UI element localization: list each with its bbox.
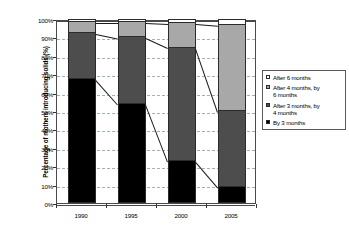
legend-label: By 3 months	[273, 119, 305, 126]
legend-swatch-icon	[266, 75, 270, 79]
bar-segment	[218, 110, 246, 185]
bar-segment	[68, 19, 96, 21]
bar-1995	[118, 19, 146, 203]
legend-item[interactable]: After 3 months, by 4 months	[266, 102, 343, 116]
x-axis-ticks: 1990199520002005	[56, 204, 256, 224]
bar-segment	[68, 78, 96, 203]
bar-segment	[118, 103, 146, 203]
bar-1990	[68, 19, 96, 203]
bar-segment	[68, 21, 96, 32]
y-tick-label: 100%	[38, 17, 53, 24]
bar-2000	[168, 19, 196, 203]
legend-swatch-icon	[266, 103, 270, 107]
y-tick-label: 30%	[41, 145, 53, 152]
connector-line	[196, 24, 218, 27]
x-tick-mark	[256, 204, 257, 208]
bar-segment	[168, 22, 196, 47]
legend-item[interactable]: By 3 months	[266, 119, 343, 126]
bar-2005	[218, 19, 246, 203]
y-tick-label: 60%	[41, 90, 53, 97]
y-axis-ticks: 100%90%80%70%60%50%40%30%20%10%0%	[26, 20, 53, 204]
bar-segment	[218, 186, 246, 203]
chart-container: Percentage of mothers introducing solids…	[0, 0, 349, 236]
x-tick-label: 1995	[125, 212, 138, 219]
legend-item[interactable]: After 6 months	[266, 74, 343, 81]
x-tick-mark	[156, 204, 157, 208]
x-tick-mark	[106, 204, 107, 208]
bar-segment	[168, 160, 196, 203]
legend-swatch-icon	[266, 120, 270, 124]
bar-segment	[168, 19, 196, 22]
y-tick-label: 90%	[41, 35, 53, 42]
y-tick-label: 10%	[41, 182, 53, 189]
connector-line	[146, 23, 168, 25]
connector-line	[95, 80, 118, 105]
y-tick-label: 0%	[44, 201, 53, 208]
chart-legend: After 6 monthsAfter 4 months, by 6 month…	[262, 70, 346, 130]
x-tick-mark	[206, 204, 207, 208]
bar-segment	[118, 21, 146, 37]
bar-segment	[118, 36, 146, 102]
x-tick-mark	[56, 204, 57, 208]
x-tick-label: 2005	[225, 212, 238, 219]
bar-segment	[118, 19, 146, 21]
y-tick-label: 40%	[41, 127, 53, 134]
y-tick-label: 50%	[41, 109, 53, 116]
bar-segment	[218, 24, 246, 110]
legend-label: After 3 months, by 4 months	[273, 102, 320, 116]
bar-segment	[218, 19, 246, 24]
x-tick-label: 2000	[175, 212, 188, 219]
y-tick-label: 80%	[41, 53, 53, 60]
x-tick-label: 1990	[75, 212, 88, 219]
plot-area	[56, 20, 256, 204]
y-tick-label: 20%	[41, 164, 53, 171]
connector-line	[195, 162, 218, 188]
bar-segment	[68, 32, 96, 78]
legend-label: After 6 months	[273, 74, 311, 81]
bar-segment	[168, 47, 196, 160]
legend-label: After 4 months, by 6 months	[273, 84, 320, 98]
y-tick-label: 70%	[41, 72, 53, 79]
legend-swatch-icon	[266, 85, 270, 89]
connector-line	[96, 23, 118, 24]
legend-item[interactable]: After 4 months, by 6 months	[266, 84, 343, 98]
plot-inner	[57, 21, 255, 203]
